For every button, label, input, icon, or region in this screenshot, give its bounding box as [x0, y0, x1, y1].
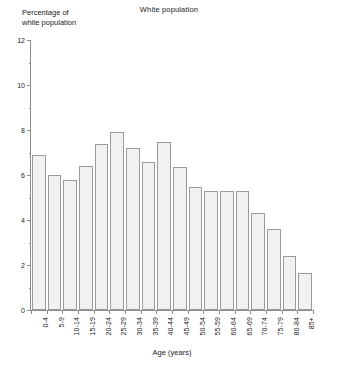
y-tick-mark	[29, 243, 32, 244]
x-tick-mark	[235, 310, 236, 314]
bar	[283, 256, 297, 310]
y-tick-label: 0	[21, 307, 25, 314]
x-tick-label: 55-59	[214, 317, 221, 335]
x-tick-mark	[250, 310, 251, 314]
x-tick-label: 70-74	[261, 317, 268, 335]
bar	[298, 273, 312, 310]
x-tick-label: 0-4	[42, 317, 49, 327]
x-tick-mark	[266, 310, 267, 314]
x-tick-mark	[172, 310, 173, 314]
y-tick-label: 12	[17, 37, 25, 44]
x-tick-label: 15-19	[89, 317, 96, 335]
x-tick-mark	[31, 310, 32, 314]
x-tick-mark	[141, 310, 142, 314]
x-tick-mark	[47, 310, 48, 314]
x-tick-label: 60-64	[230, 317, 237, 335]
y-axis-label-line-1: Percentage of	[22, 8, 76, 18]
y-tick-label: 2	[21, 262, 25, 269]
x-tick-label: 40-44	[167, 317, 174, 335]
y-tick-mark	[27, 130, 31, 131]
bar	[189, 187, 203, 310]
x-tick-mark	[156, 310, 157, 314]
bar	[63, 180, 77, 311]
y-tick-mark	[29, 198, 32, 199]
x-tick-mark	[313, 310, 314, 314]
bar	[110, 132, 124, 310]
y-axis-label-line-2: white population	[22, 18, 76, 28]
y-axis-label: Percentage of white population	[22, 8, 76, 28]
x-tick-label: 45-49	[183, 317, 190, 335]
y-tick-mark	[29, 288, 32, 289]
bar	[251, 213, 265, 310]
bar	[267, 229, 281, 310]
y-tick-mark	[27, 265, 31, 266]
bar	[157, 142, 171, 310]
bar	[173, 167, 187, 310]
x-tick-label: 30-34	[136, 317, 143, 335]
x-tick-label: 25-29	[120, 317, 127, 335]
x-tick-mark	[282, 310, 283, 314]
x-tick-mark	[94, 310, 95, 314]
x-tick-label: 20-24	[105, 317, 112, 335]
chart-figure: White population Percentage of white pop…	[0, 0, 338, 370]
y-tick-mark	[27, 175, 31, 176]
x-tick-mark	[219, 310, 220, 314]
x-tick-mark	[78, 310, 79, 314]
bar	[220, 191, 234, 310]
y-tick-mark	[29, 108, 32, 109]
y-tick-mark	[29, 153, 32, 154]
y-tick-mark	[27, 40, 31, 41]
y-tick-mark	[27, 85, 31, 86]
y-tick-label: 10	[17, 82, 25, 89]
x-tick-mark	[297, 310, 298, 314]
bar	[79, 166, 93, 310]
bar	[126, 148, 140, 310]
plot-area: 024681012	[31, 40, 313, 310]
x-tick-label: 10-14	[73, 317, 80, 335]
x-tick-label: 5-9	[58, 317, 65, 327]
bar	[142, 162, 156, 311]
bar	[204, 191, 218, 310]
y-tick-mark	[29, 63, 32, 64]
bar	[32, 155, 46, 310]
x-tick-mark	[188, 310, 189, 314]
x-tick-mark	[109, 310, 110, 314]
bar	[236, 191, 250, 310]
y-tick-label: 6	[21, 172, 25, 179]
x-axis-label: Age (years)	[31, 348, 313, 357]
bar	[95, 144, 109, 311]
x-tick-label: 80-84	[293, 317, 300, 335]
x-tick-mark	[62, 310, 63, 314]
bar	[48, 175, 62, 310]
y-tick-label: 8	[21, 127, 25, 134]
x-tick-label: 50-54	[199, 317, 206, 335]
x-tick-mark	[203, 310, 204, 314]
y-tick-label: 4	[21, 217, 25, 224]
x-tick-mark	[125, 310, 126, 314]
x-tick-label: 35-39	[152, 317, 159, 335]
x-tick-label: 65-69	[246, 317, 253, 335]
y-tick-mark	[27, 220, 31, 221]
x-tick-label: 75-79	[277, 317, 284, 335]
x-tick-label: 85+	[308, 317, 315, 329]
